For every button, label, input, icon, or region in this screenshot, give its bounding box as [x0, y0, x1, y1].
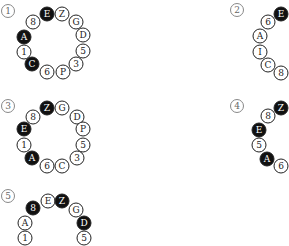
bead-black: Z — [55, 194, 70, 209]
bead-black: 8 — [26, 201, 41, 216]
bead-white: A — [18, 216, 33, 231]
puzzle-number-label: 5 — [1, 189, 15, 203]
bead-white: 5 — [77, 231, 92, 246]
bead-white: E — [41, 194, 56, 209]
bead-white: 1 — [18, 231, 33, 246]
bead-black: D — [77, 216, 92, 231]
